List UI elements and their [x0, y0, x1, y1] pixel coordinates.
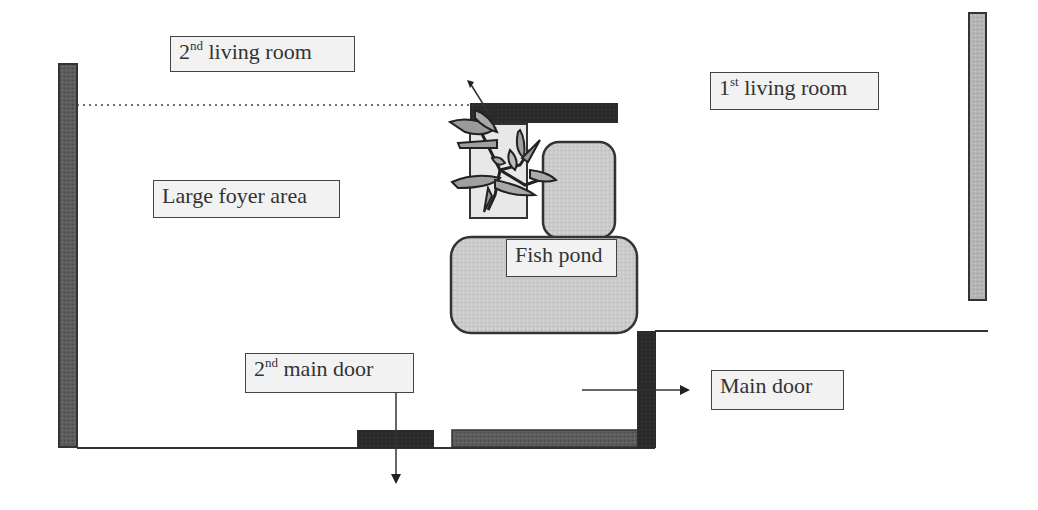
label-num: 1 — [719, 75, 730, 100]
label-text: main door — [278, 356, 373, 381]
label-sup: st — [730, 74, 739, 89]
top-beam — [470, 103, 618, 123]
label-fish-pond: Fish pond — [506, 239, 617, 277]
label-text: Main door — [720, 373, 812, 398]
left-wall — [59, 64, 77, 447]
bottom-gray-wall — [452, 430, 654, 447]
label-text: Fish pond — [515, 242, 602, 267]
label-second-living-room: 2nd living room — [170, 36, 355, 72]
label-first-living-room: 1st living room — [710, 72, 879, 110]
right-wall — [969, 13, 986, 300]
label-second-main-door: 2nd main door — [245, 353, 414, 393]
potted-plant-icon — [450, 80, 556, 218]
label-num: 2 — [254, 356, 265, 381]
label-text: living room — [203, 39, 312, 64]
label-text: living room — [739, 75, 848, 100]
label-sup: nd — [190, 38, 203, 53]
label-large-foyer-area: Large foyer area — [153, 180, 340, 218]
label-main-door: Main door — [711, 370, 844, 410]
label-text: Large foyer area — [162, 183, 307, 208]
label-num: 2 — [179, 39, 190, 64]
label-sup: nd — [265, 355, 278, 370]
pond-upper-section — [543, 142, 615, 238]
